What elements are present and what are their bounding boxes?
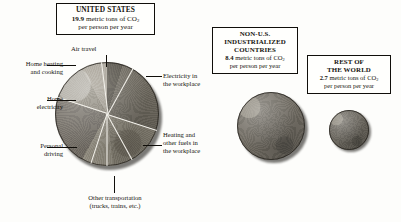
circle-sheen — [237, 92, 305, 160]
caption-heading-non-us-line3: COUNTRIES — [217, 46, 293, 54]
pie-wedge-separator — [108, 68, 134, 114]
circle-rest-of-the-world — [329, 110, 369, 150]
pie-wedge-separator — [90, 114, 107, 164]
pie-wedges — [55, 62, 159, 166]
caption-heading-row-line1: REST OF — [312, 58, 386, 66]
value-number-united-states: 19.9 — [72, 15, 84, 23]
label-personal-driving: Personal driving — [12, 142, 63, 158]
leader-heating-workplace — [143, 145, 162, 146]
leader-air-travel — [106, 55, 107, 67]
halftone-texture — [329, 110, 369, 150]
label-other-transportation: Other transportation (trucks, trains, et… — [62, 194, 168, 210]
label-heating-and-other-fuels: Heating and other fuels in the workplace — [163, 131, 200, 155]
leader-electricity-workplace — [146, 76, 162, 77]
caption-value-non-us: 8.4 metric tons of CO2 — [217, 54, 293, 62]
circle-sheen — [329, 110, 369, 150]
caption-box-united-states: UNITED STATES 19.9 metric tons of CO2 pe… — [56, 3, 155, 35]
label-home-heating-and-cooking: Home heating and cooking — [3, 60, 63, 76]
pie-wedge-separator — [107, 114, 108, 166]
caption-unit-united-states: per person per year — [61, 23, 150, 31]
pie-chart-united-states — [55, 62, 159, 166]
caption-box-non-us-industrialized: NON-U.S. INDUSTRIALIZED COUNTRIES 8.4 me… — [212, 27, 298, 74]
caption-value-united-states: 19.9 metric tons of CO2 — [61, 15, 150, 24]
caption-value-row: 2.7 metric tons of CO2 — [312, 74, 386, 82]
label-electricity-in-the-workplace: Electricity in the workplace — [163, 72, 200, 88]
caption-box-rest-of-the-world: REST OF THE WORLD 2.7 metric tons of CO2… — [307, 55, 391, 94]
label-home-electricity: Home electricity — [8, 95, 63, 111]
figure-canvas: UNITED STATES 19.9 metric tons of CO2 pe… — [0, 0, 401, 222]
circle-rim — [329, 110, 369, 150]
circle-non-us-industrialized — [237, 92, 305, 160]
leader-other-transportation — [114, 176, 115, 193]
halftone-texture — [237, 92, 305, 160]
pie-wedge-separator — [101, 62, 109, 114]
circle-rim — [237, 92, 305, 160]
label-air-travel: Air travel — [71, 45, 96, 53]
caption-heading-united-states: UNITED STATES — [61, 6, 150, 15]
caption-heading-non-us-line2: INDUSTRIALIZED — [217, 38, 293, 46]
value-number-row: 2.7 — [320, 74, 328, 81]
caption-heading-non-us-line1: NON-U.S. — [217, 30, 293, 38]
value-number-non-us: 8.4 — [225, 54, 233, 61]
caption-unit-row: per person per year — [312, 82, 386, 90]
caption-heading-row-line2: THE WORLD — [312, 66, 386, 74]
caption-unit-non-us: per person per year — [217, 62, 293, 70]
